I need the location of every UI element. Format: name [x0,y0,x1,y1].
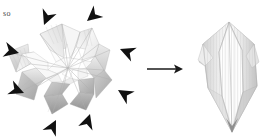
arrow-top-left-icon [37,8,57,28]
arrow-right-lower-icon [114,84,135,105]
arrow-bottom-left-icon [43,117,63,137]
arrow-top-right-icon [82,6,103,27]
collapsed-diamond-model [198,22,259,133]
process-arrow [147,65,183,74]
figure-canvas [0,0,268,138]
star-origami-model [3,6,137,137]
arrow-bottom-right-icon [78,112,97,131]
arrow-right-upper-icon [117,42,137,62]
origami-figure: so [0,0,268,138]
